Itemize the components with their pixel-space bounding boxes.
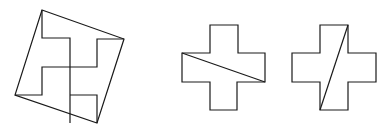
figure-cross-shallow-cut [182,25,265,110]
diagonal-cut-line [320,25,348,110]
dissection-diagram [0,0,391,129]
figure-tilted-square [15,10,124,123]
figure-cross-steep-cut [292,25,376,110]
diagonal-cut-line [182,53,265,82]
